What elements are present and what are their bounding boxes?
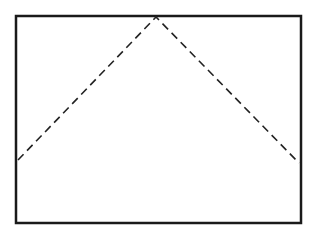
dashed-peak-line: [18, 17, 299, 163]
frame-rectangle: [16, 16, 301, 223]
diagram-canvas: [0, 0, 322, 240]
